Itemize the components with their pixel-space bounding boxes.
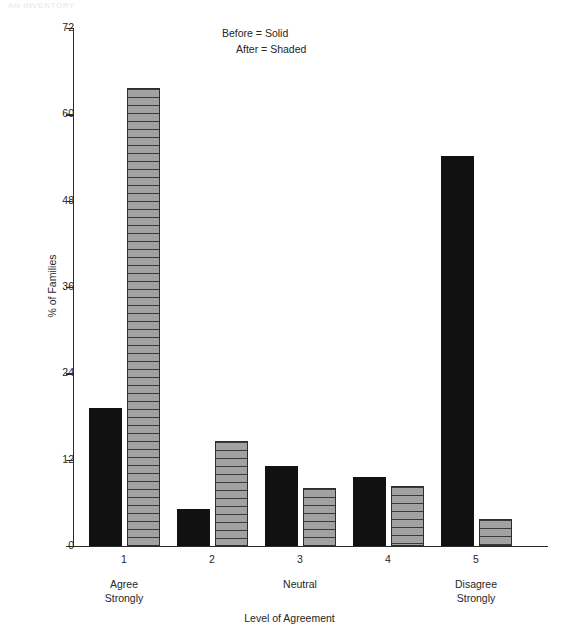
y-axis-tick-label: 36 [30,280,74,292]
bar-after-2 [215,441,248,546]
bar-before-1 [89,408,122,546]
legend-entry-before: Before = Solid [222,25,306,41]
bar-before-2 [177,509,210,546]
y-axis-tick-label: 60 [30,107,74,119]
legend-entry-after: After = Shaded [222,41,306,57]
x-axis-tick-label-4: 4 [368,553,408,565]
x-axis-line [73,546,548,547]
chart-legend: Before = Solid After = Shaded [222,25,306,57]
x-axis-category-description-3: Neutral [245,577,355,591]
x-axis-tick-label-1: 1 [104,553,144,565]
x-axis-tick-label-2: 2 [192,553,232,565]
y-axis-tick-label: 24 [30,366,74,378]
x-axis-tick-label-5: 5 [456,553,496,565]
x-axis-tick-label-3: 3 [280,553,320,565]
bar-after-5 [479,519,512,546]
bar-before-3 [265,466,298,546]
bar-after-4 [391,486,424,546]
bar-before-4 [353,477,386,546]
x-axis-category-description-5: Disagree Strongly [421,577,531,605]
bar-after-3 [303,488,336,546]
bar-after-1 [127,88,160,546]
bar-chart-figure: AN INVENTORY Before = Solid After = Shad… [0,0,579,631]
x-axis-category-description-1: Agree Strongly [69,577,179,605]
y-axis-tick-label: 72 [30,21,74,33]
y-axis-tick-label: 12 [30,453,74,465]
page-running-header: AN INVENTORY [8,1,75,10]
y-axis-tick-label: 0 [30,539,74,551]
bar-before-5 [441,156,474,546]
x-axis-title: Level of Agreement [0,612,579,624]
y-axis-tick-label: 48 [30,194,74,206]
